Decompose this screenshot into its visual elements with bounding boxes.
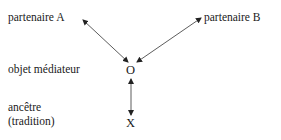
diagram-arrows (0, 0, 281, 140)
arrow-partner-a-mediator (83, 20, 128, 62)
arrow-mediator-partner-b (137, 18, 201, 62)
